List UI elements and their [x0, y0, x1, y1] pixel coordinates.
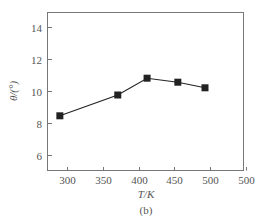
y-tick-label: 8: [37, 118, 43, 130]
square-marker: [56, 112, 63, 119]
plot-frame: [48, 13, 244, 171]
y-axis-title: θ/(°): [7, 81, 20, 102]
x-tick-label: 500: [238, 174, 255, 186]
x-tick-label: 300: [59, 174, 76, 186]
y-tick-label: 14: [31, 22, 43, 34]
square-marker: [201, 84, 208, 91]
y-tick-label: 6: [37, 150, 43, 162]
x-tick-label: 500: [202, 174, 219, 186]
x-axis-title: T/K: [138, 188, 155, 200]
y-tick-label: 10: [31, 86, 43, 98]
x-axis-ticks: 300350400450500500: [59, 167, 255, 186]
y-tick-label: 12: [31, 54, 42, 66]
square-marker: [144, 75, 151, 82]
x-tick-label: 400: [131, 174, 148, 186]
figure-caption: (b): [140, 204, 153, 217]
x-tick-label: 450: [166, 174, 183, 186]
series-line: [60, 78, 205, 116]
square-marker: [114, 92, 121, 99]
line-chart: 300350400450500500 68101214 T/K θ/(°) (b…: [0, 0, 261, 224]
y-axis-ticks: 68101214: [31, 22, 52, 162]
data-series: [56, 75, 208, 120]
square-marker: [174, 79, 181, 86]
x-tick-label: 350: [95, 174, 112, 186]
